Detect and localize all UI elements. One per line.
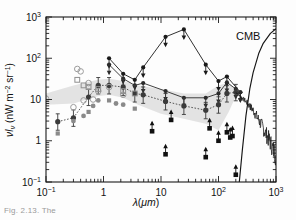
svg-text:103: 103	[26, 11, 41, 23]
svg-text:1: 1	[35, 135, 41, 146]
svg-text:103: 103	[268, 186, 283, 198]
svg-text:102: 102	[211, 186, 226, 198]
svg-text:10−1: 10−1	[22, 176, 41, 188]
svg-text:10: 10	[30, 94, 42, 105]
svg-text:102: 102	[26, 52, 41, 64]
svg-text:1: 1	[101, 187, 107, 198]
y-axis-label: νIν (nW m−2 sr−1)	[4, 63, 16, 137]
svg-text:10−1: 10−1	[36, 186, 55, 198]
cib-spectrum-chart: 10−111010210310−1110102103 CMB λ(μm) νIν…	[0, 0, 296, 220]
figure-container: 10−111010210310−1110102103 CMB λ(μm) νIν…	[0, 0, 296, 220]
cmb-annotation-label: CMB	[236, 30, 260, 42]
figure-caption: Fig. 2.13. The	[4, 206, 164, 218]
